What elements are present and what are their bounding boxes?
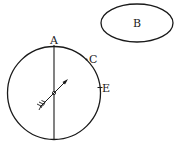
label-a: A [49, 34, 59, 47]
label-c: C [89, 53, 97, 66]
arrow-icon [37, 79, 68, 110]
label-b: B [133, 17, 141, 30]
geometry-diagram: B A C E [0, 0, 178, 143]
label-e: E [102, 82, 110, 95]
point-c-marker [86, 59, 88, 61]
